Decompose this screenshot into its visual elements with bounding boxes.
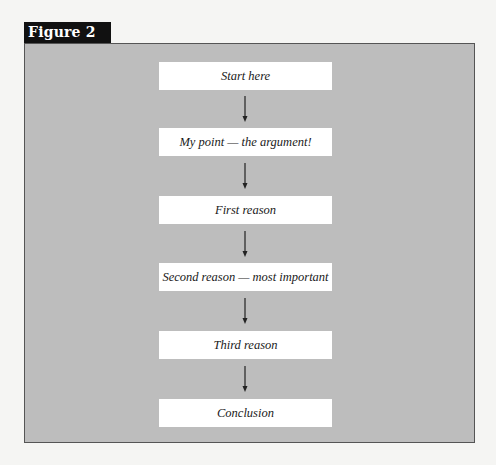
flow-node-conclusion: Conclusion [159,399,332,427]
arrow-down-icon [240,231,250,257]
flow-node-start: Start here [159,62,332,90]
flow-node-point: My point — the argument! [159,128,332,156]
flow-node-third-reason: Third reason [159,331,332,359]
flow-node-first-reason: First reason [159,196,332,224]
figure-label: Figure 2 [24,22,111,43]
diagram-frame: Start here My point — the argument! Firs… [24,43,475,443]
arrow-down-icon [240,298,250,324]
arrow-down-icon [240,163,250,189]
arrow-down-icon [240,366,250,392]
arrow-down-icon [240,96,250,122]
flow-node-second-reason: Second reason — most important [159,263,332,291]
